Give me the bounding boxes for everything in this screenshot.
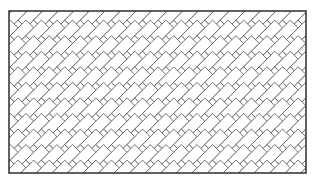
pattern-canvas [0, 0, 316, 185]
brick-group [0, 0, 316, 185]
herringbone-pattern-figure [0, 0, 316, 185]
